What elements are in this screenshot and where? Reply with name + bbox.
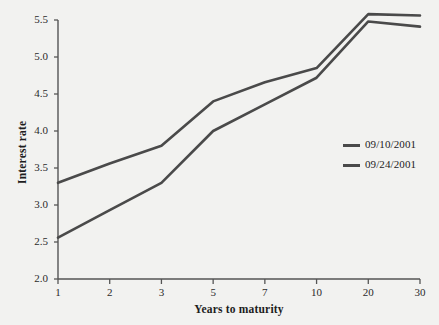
legend-label-series-1: 09/10/2001 xyxy=(365,138,416,150)
x-axis-title: Years to maturity xyxy=(58,303,420,315)
x-tick-label: 10 xyxy=(305,287,329,298)
x-tick-label: 2 xyxy=(98,287,122,298)
legend-swatch-series-1 xyxy=(343,144,360,147)
legend-swatch-series-2 xyxy=(343,164,360,167)
y-tick-label: 5.5 xyxy=(22,14,48,25)
x-tick-label: 20 xyxy=(356,287,380,298)
x-tick-label: 30 xyxy=(408,287,432,298)
x-tick-label: 7 xyxy=(253,287,277,298)
y-tick-label: 2.0 xyxy=(22,273,48,284)
y-tick-label: 2.5 xyxy=(22,236,48,247)
interest-rate-line-chart: 2.02.53.03.54.04.55.05.5 12357102030 Yea… xyxy=(0,0,439,325)
x-tick-label: 3 xyxy=(149,287,173,298)
y-axis-title: Interest rate xyxy=(16,120,28,183)
y-tick-label: 4.5 xyxy=(22,88,48,99)
x-tick-label: 1 xyxy=(46,287,70,298)
x-tick-label: 5 xyxy=(201,287,225,298)
y-tick-label: 3.0 xyxy=(22,199,48,210)
legend-label-series-2: 09/24/2001 xyxy=(365,158,416,170)
y-tick-label: 5.0 xyxy=(22,51,48,62)
